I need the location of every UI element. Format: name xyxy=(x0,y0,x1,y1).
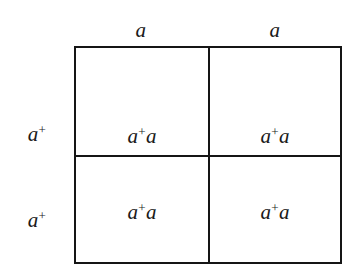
genotype-0-0-superscript-1: + xyxy=(138,124,146,139)
genotype-1-1: a+a xyxy=(261,200,290,225)
column-header-1: a xyxy=(208,17,342,43)
genotype-1-0-superscript-1: + xyxy=(138,200,146,215)
genotype-1-1-allele-2: a xyxy=(279,200,290,224)
column-header-0-allele: a xyxy=(136,18,147,42)
genotype-0-0-allele-2: a xyxy=(146,124,157,148)
punnett-cell-1-1: a+a xyxy=(208,155,340,262)
row-header-0: a+ xyxy=(8,122,66,147)
genotype-1-1-allele-1: a xyxy=(261,200,272,224)
punnett-cell-1-0: a+a xyxy=(76,155,208,262)
row-header-0-superscript: + xyxy=(38,122,46,137)
genotype-0-1-allele-1: a xyxy=(261,124,272,148)
genotype-0-1: a+a xyxy=(261,124,290,149)
row-header-0-allele: a xyxy=(28,122,39,146)
punnett-grid: a+a a+a a+a a+a xyxy=(74,46,342,264)
genotype-0-1-allele-2: a xyxy=(279,124,290,148)
genotype-1-0-allele-2: a xyxy=(146,200,157,224)
row-header-1: a+ xyxy=(8,208,66,233)
punnett-cell-0-1: a+a xyxy=(208,48,340,155)
genotype-0-0: a+a xyxy=(128,124,157,149)
genotype-0-1-superscript-1: + xyxy=(271,124,279,139)
genotype-1-0-allele-1: a xyxy=(128,200,139,224)
column-header-0: a xyxy=(74,17,208,43)
punnett-cell-0-0: a+a xyxy=(76,48,208,155)
column-header-0-superscript xyxy=(146,18,147,33)
row-header-1-allele: a xyxy=(28,208,39,232)
column-header-1-superscript xyxy=(280,18,281,33)
genotype-1-0: a+a xyxy=(128,200,157,225)
genotype-0-0-allele-1: a xyxy=(128,124,139,148)
genotype-1-1-superscript-1: + xyxy=(271,200,279,215)
punnett-square-figure: a a a+ a+ a+a a+a a+a a+a xyxy=(0,0,364,279)
column-header-1-allele: a xyxy=(270,18,281,42)
row-header-1-superscript: + xyxy=(38,208,46,223)
